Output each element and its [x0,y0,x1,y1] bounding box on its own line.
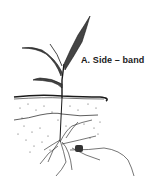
soil-surface [14,95,107,101]
figure-label: A. Side – band [81,55,144,65]
plant-stem [62,64,64,98]
soil-layer-line [14,113,98,120]
plant-roots [40,120,134,176]
fertilizer-band [75,145,83,152]
plant-leaves [22,16,90,88]
soil-stipple [18,104,101,153]
side-band-illustration: A. Side – band [0,0,156,183]
